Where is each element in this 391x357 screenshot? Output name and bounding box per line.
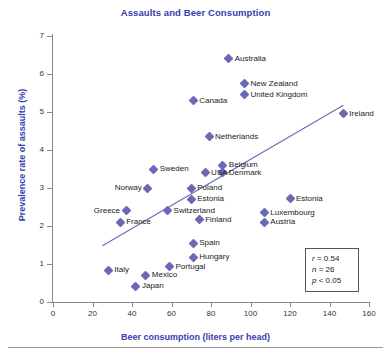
data-point-label: New Zealand: [251, 80, 298, 88]
stat-n-value: = 26: [319, 265, 335, 274]
x-tick: [132, 302, 133, 307]
y-tick-label: 4: [30, 146, 44, 154]
data-point-label: Denmark: [229, 169, 261, 177]
stat-r-symbol: r: [312, 254, 315, 263]
data-point-label: Sweden: [160, 165, 189, 173]
x-tick: [93, 302, 94, 307]
x-tick-label: 100: [239, 310, 263, 318]
x-tick: [369, 302, 370, 307]
y-tick: [47, 36, 52, 37]
data-point-label: France: [126, 218, 151, 226]
y-tick-label: 6: [30, 70, 44, 78]
data-point-label: Netherlands: [215, 133, 258, 141]
footer-divider: [8, 347, 383, 348]
y-tick: [47, 150, 52, 151]
stat-r-value: = 0.54: [317, 254, 339, 263]
y-tick: [47, 226, 52, 227]
x-tick-label: 160: [357, 310, 381, 318]
data-point-label: Ireland: [349, 110, 373, 118]
x-tick: [330, 302, 331, 307]
data-point-label: Italy: [114, 266, 129, 274]
y-tick-label: 1: [30, 260, 44, 268]
data-point-label: Greece: [94, 207, 120, 215]
x-axis-title: Beer consumption (liters per head): [0, 332, 391, 342]
stats-box: r = 0.54 n = 26 p < 0.05: [305, 248, 359, 292]
data-point-label: Luxembourg: [270, 209, 314, 217]
x-tick-label: 0: [41, 310, 65, 318]
data-point-label: United Kingdom: [251, 91, 308, 99]
data-point-label: Australia: [235, 55, 266, 63]
data-point-label: Poland: [197, 184, 222, 192]
data-point-label: Norway: [115, 184, 142, 192]
y-tick-label: 2: [30, 222, 44, 230]
data-point-label: Estonia: [296, 195, 323, 203]
data-point-label: Finland: [205, 216, 231, 224]
data-point-label: Hungary: [199, 253, 229, 261]
data-point-label: Switzerland: [174, 207, 215, 215]
x-tick-label: 120: [278, 310, 302, 318]
x-tick-label: 140: [318, 310, 342, 318]
data-point-label: Canada: [199, 97, 227, 105]
chart-title: Assaults and Beer Consumption: [0, 7, 391, 18]
data-point-label: Mexico: [152, 271, 177, 279]
x-tick: [290, 302, 291, 307]
data-point-label: Austria: [270, 218, 295, 226]
y-tick-label: 3: [30, 184, 44, 192]
stat-p-symbol: p: [312, 276, 316, 285]
stat-p-value: < 0.05: [319, 276, 341, 285]
y-tick: [47, 112, 52, 113]
y-tick-label: 5: [30, 108, 44, 116]
y-tick: [47, 74, 52, 75]
y-tick: [47, 188, 52, 189]
y-axis-title: Prevalence rate of assaults (%): [17, 45, 27, 265]
x-tick: [251, 302, 252, 307]
data-point-label: Portugal: [176, 263, 206, 271]
data-point-label: Spain: [199, 239, 219, 247]
y-tick-label: 0: [30, 298, 44, 306]
y-tick: [47, 302, 52, 303]
data-point-label: Japan: [142, 282, 164, 290]
x-tick-label: 80: [199, 310, 223, 318]
chart-figure: Assaults and Beer Consumption 01234567 0…: [0, 0, 391, 357]
data-point-label: Estonia: [197, 195, 224, 203]
x-tick-label: 20: [81, 310, 105, 318]
stat-n: n = 26: [312, 264, 353, 275]
x-tick: [53, 302, 54, 307]
data-point-label: USA: [211, 169, 227, 177]
x-tick-label: 40: [120, 310, 144, 318]
stat-p: p < 0.05: [312, 275, 353, 286]
y-tick-label: 7: [30, 32, 44, 40]
stat-r: r = 0.54: [312, 253, 353, 264]
y-tick: [47, 264, 52, 265]
x-tick: [211, 302, 212, 307]
x-tick: [172, 302, 173, 307]
stat-n-symbol: n: [312, 265, 316, 274]
x-tick-label: 60: [160, 310, 184, 318]
